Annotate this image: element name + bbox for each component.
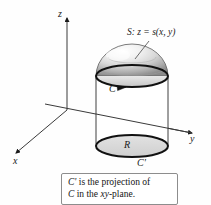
caption-line-1-text: is the projection of: [76, 177, 150, 187]
region-R-label: R: [124, 140, 130, 150]
region-R-disc: [96, 135, 168, 157]
curve-C-label: C: [109, 84, 116, 94]
curve-C-prime: [96, 135, 168, 157]
x-axis: [16, 110, 67, 153]
dome-cap: [96, 44, 168, 76]
axis-label-z: z: [58, 9, 62, 19]
surface-equation-label: S: z = s(x, y): [127, 28, 175, 38]
figure-container: z x y S: z = s(x, y) C R C' C' is the pr…: [0, 0, 211, 205]
axis-label-y: y: [190, 134, 194, 144]
dome-highlight: [106, 49, 130, 61]
curve-C-prime-label: C': [137, 158, 146, 168]
caption-box: C' is the projection of C in the xy-plan…: [61, 173, 178, 205]
caption-line-2: C in the xy-plane.: [68, 189, 172, 201]
surface-S-dome: [96, 44, 168, 76]
caption-line-1: C' is the projection of: [68, 177, 172, 189]
caption-line-2-mid: in the: [74, 189, 100, 199]
caption-plane-xy: xy: [100, 189, 108, 199]
axis-label-x: x: [13, 156, 17, 166]
caption-line-2-end: -plane.: [109, 189, 135, 199]
